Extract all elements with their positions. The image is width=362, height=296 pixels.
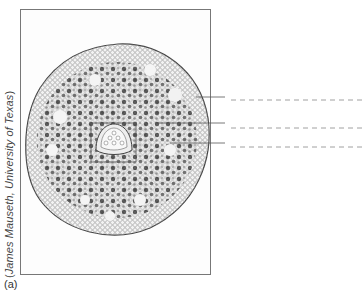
photo-credit: (James Mauseth, University of Texas) [3, 91, 15, 278]
root-cross-section-illustration [0, 0, 362, 296]
credit-close-paren: ) [3, 91, 15, 95]
figure: (James Mauseth, University of Texas) (a) [0, 0, 362, 296]
panel-label: (a) [4, 278, 17, 290]
credit-text: James Mauseth, University of Texas [3, 95, 15, 275]
label-blanks [231, 100, 362, 147]
